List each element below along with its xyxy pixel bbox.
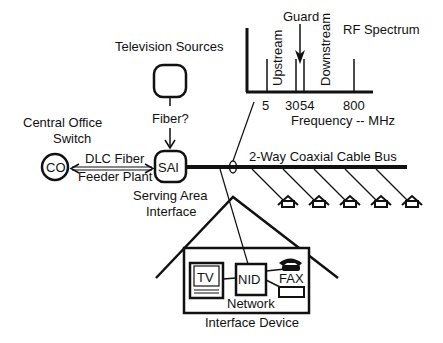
fax-machine-icon — [279, 287, 304, 297]
tick-label-800: 800 — [343, 98, 365, 113]
fax-text: FAX — [279, 271, 304, 286]
spectrum-title: RF Spectrum — [343, 22, 420, 37]
co-text: CO — [46, 160, 66, 175]
central-office-label-line1: Central Office — [23, 115, 102, 130]
tv-text: TV — [197, 270, 214, 285]
tick-label-30: 30 — [285, 98, 299, 113]
tv-to-nid-line — [223, 278, 236, 279]
fiber-label: Fiber? — [152, 111, 189, 126]
television-source-box — [154, 65, 186, 97]
downstream-label: Downstream — [318, 13, 333, 86]
dlc-label-line2: Feeder Plant — [78, 169, 153, 184]
network-diagram: Guard Upstream Downstream RF Spectrum 5 … — [0, 0, 443, 343]
sai-text: SAI — [158, 160, 179, 175]
tick-label-5: 5 — [262, 98, 269, 113]
dlc-label-line1: DLC Fiber — [85, 151, 145, 166]
coaxial-bus-label: 2-Way Coaxial Cable Bus — [249, 149, 397, 164]
frequency-axis-label: Frequency -- MHz — [291, 113, 395, 128]
house-drops — [252, 169, 422, 207]
sai-label-line1: Serving Area — [133, 188, 208, 203]
rf-spectrum-chart: Guard Upstream Downstream RF Spectrum 5 … — [246, 9, 420, 128]
nid-label-line1: Network — [227, 296, 275, 311]
sai-label-line2: Interface — [146, 204, 197, 219]
guard-label: Guard — [283, 9, 319, 24]
upstream-label: Upstream — [270, 30, 285, 86]
tick-label-54: 54 — [300, 98, 314, 113]
nid-text: NID — [238, 272, 260, 287]
nid-label-line2: Interface Device — [205, 315, 299, 330]
television-sources-label: Television Sources — [115, 39, 224, 54]
central-office-label-line2: Switch — [53, 131, 91, 146]
